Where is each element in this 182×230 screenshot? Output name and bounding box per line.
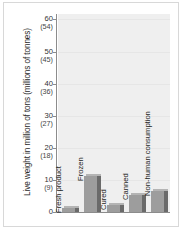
- bar: [151, 188, 168, 213]
- y-tick-mark-20: [53, 148, 57, 149]
- y-tick-mark-40: [53, 84, 57, 85]
- y-tick-mark-60: [53, 19, 57, 20]
- bar-side-face: [142, 193, 146, 213]
- category-label-4: Non-human consumption: [143, 111, 152, 196]
- y-tick-label-secondary-30: (27): [9, 120, 53, 128]
- category-label-0: Fresh product: [54, 166, 63, 213]
- y-tick-mark-30: [53, 116, 57, 117]
- y-tick-label-secondary-20: (18): [9, 152, 53, 160]
- y-tick-label-secondary-50: (45): [9, 56, 53, 64]
- y-tick-label-secondary-40: (36): [9, 88, 53, 96]
- bar-front-face: [151, 191, 164, 213]
- x-axis-line: [56, 212, 170, 213]
- bar-front-face: [129, 195, 142, 213]
- bar-top-face: [153, 189, 168, 191]
- category-label-2: Cured: [99, 189, 108, 210]
- bars-group: [58, 14, 170, 213]
- chart-figure: Live weight in million of tons (millions…: [0, 0, 182, 230]
- y-axis-tick-labels: 010(9)20(18)30(27)40(36)50(45)60(54): [0, 0, 53, 230]
- plot-area: [58, 14, 170, 213]
- y-tick-mark-10: [53, 180, 57, 181]
- bar-front-face: [84, 176, 97, 213]
- category-label-1: Frozen: [76, 157, 85, 181]
- bar-top-face: [64, 206, 79, 208]
- bar-side-face: [164, 189, 168, 213]
- category-label-3: Canned: [121, 174, 130, 201]
- y-tick-mark-0: [53, 212, 57, 213]
- y-tick-label-primary-0: 0: [9, 208, 53, 216]
- y-tick-mark-50: [53, 52, 57, 53]
- bar-top-face: [86, 174, 101, 176]
- bar-top-face: [109, 203, 124, 205]
- y-tick-label-secondary-10: (9): [9, 184, 53, 192]
- y-tick-label-secondary-60: (54): [9, 23, 53, 31]
